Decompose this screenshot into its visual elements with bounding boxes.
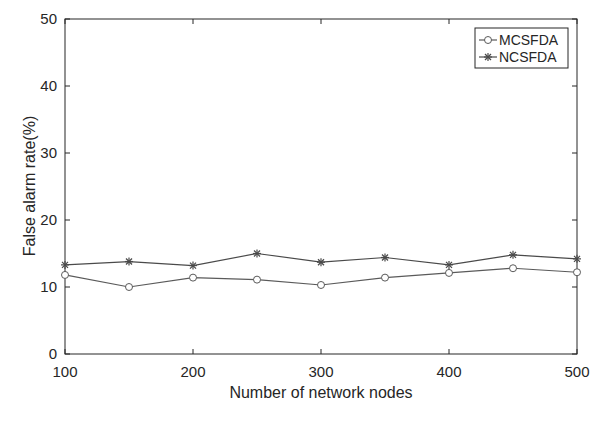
y-tick-label: 10 [40, 278, 57, 295]
y-tick-label: 30 [40, 144, 57, 161]
series-layer [61, 250, 581, 291]
star-marker-icon [573, 255, 581, 263]
y-tick-label: 40 [40, 77, 57, 94]
series-mcsfda [62, 265, 581, 291]
star-marker-icon [61, 261, 69, 269]
legend-label: NCSFDA [499, 49, 557, 65]
circle-marker-icon [126, 284, 133, 291]
y-tick-label: 0 [49, 345, 57, 362]
star-marker-icon [253, 250, 261, 258]
x-tick-label: 200 [180, 363, 205, 380]
circle-marker-icon [574, 269, 581, 276]
x-axis-label: Number of network nodes [229, 384, 412, 401]
circle-marker-icon [446, 269, 453, 276]
series-ncsfda [61, 250, 581, 270]
y-tick-label: 50 [40, 10, 57, 27]
x-tick-label: 300 [308, 363, 333, 380]
circle-marker-icon [254, 276, 261, 283]
star-marker-icon [509, 251, 517, 259]
x-tick-label: 100 [52, 363, 77, 380]
star-marker-icon [484, 53, 492, 61]
circle-marker-icon [382, 274, 389, 281]
star-marker-icon [317, 258, 325, 266]
x-tick-label: 400 [436, 363, 461, 380]
plot-frame [65, 19, 577, 354]
circle-marker-icon [190, 274, 197, 281]
star-marker-icon [445, 261, 453, 269]
y-axis-label: False alarm rate(%) [21, 116, 38, 256]
y-tick-label: 20 [40, 211, 57, 228]
star-marker-icon [125, 258, 133, 266]
circle-marker-icon [485, 37, 492, 44]
star-marker-icon [189, 262, 197, 270]
x-tick-label: 500 [564, 363, 589, 380]
circle-marker-icon [510, 265, 517, 272]
legend-label: MCSFDA [499, 32, 559, 48]
plot-border [65, 19, 577, 354]
legend: MCSFDANCSFDA [475, 28, 568, 68]
line-chart: 10020030040050001020304050 MCSFDANCSFDA … [0, 0, 610, 421]
star-marker-icon [381, 254, 389, 262]
circle-marker-icon [318, 281, 325, 288]
circle-marker-icon [62, 271, 69, 278]
